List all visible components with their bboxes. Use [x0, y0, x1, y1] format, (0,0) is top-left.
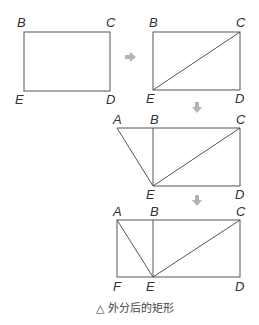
- arrow-right-icon: [125, 52, 136, 62]
- diagonal-ec: [153, 32, 240, 90]
- label-a: A: [112, 112, 122, 127]
- step-2-rectangle-with-diagonal-ec: B C E D: [146, 15, 246, 106]
- segment-ae: [117, 128, 153, 186]
- label-e: E: [146, 279, 155, 294]
- label-e: E: [146, 91, 155, 106]
- label-e: E: [146, 187, 155, 202]
- rectangle-subdivision-diagram: B C E D B C E D A B C E D: [0, 0, 259, 325]
- label-b: B: [149, 15, 158, 30]
- step-3-with-triangle-abe: A B C E D: [112, 112, 246, 202]
- diagonal-ec: [153, 128, 240, 186]
- label-d: D: [235, 91, 244, 106]
- segment-ae: [117, 220, 153, 277]
- label-b: B: [17, 15, 26, 30]
- label-c: C: [106, 15, 116, 30]
- figure-caption: △ 外分后的矩形: [96, 299, 174, 315]
- step-1-rectangle-bced: B C E D: [15, 15, 116, 107]
- label-c: C: [236, 204, 246, 219]
- triangle-icon: △: [96, 302, 104, 315]
- label-c: C: [236, 112, 246, 127]
- label-e: E: [15, 92, 24, 107]
- arrow-down-icon: [192, 102, 202, 113]
- label-c: C: [236, 15, 246, 30]
- label-d: D: [106, 92, 115, 107]
- label-b: B: [150, 112, 159, 127]
- label-f: F: [113, 279, 122, 294]
- label-d: D: [235, 187, 244, 202]
- label-b: B: [150, 204, 159, 219]
- label-d: D: [235, 279, 244, 294]
- label-a: A: [112, 204, 122, 219]
- caption-text: 外分后的矩形: [108, 302, 174, 315]
- diagonal-ec: [153, 220, 240, 277]
- arrow-down-icon: [192, 195, 202, 206]
- step-4-rectangle-afdc: A B C F E D: [112, 204, 246, 294]
